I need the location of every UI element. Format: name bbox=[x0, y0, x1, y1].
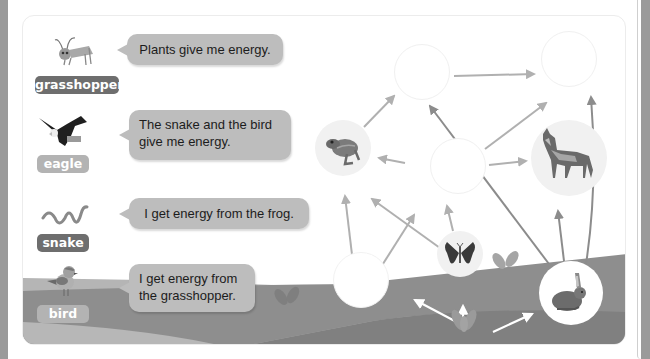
wolf-icon bbox=[531, 120, 607, 196]
arrow-topcenter-to-topright bbox=[454, 74, 534, 76]
frog-icon bbox=[315, 120, 371, 176]
arrow-center-to-wolf bbox=[489, 161, 526, 165]
page-edge-right-inner bbox=[637, 0, 641, 359]
butterfly-icon bbox=[437, 231, 483, 277]
node-top-center-empty[interactable] bbox=[394, 44, 450, 100]
node-butterfly bbox=[437, 231, 483, 277]
node-center-empty[interactable] bbox=[430, 138, 486, 194]
arrow-rabbit-to-wolf bbox=[558, 211, 564, 261]
arrow-center-to-frog bbox=[379, 158, 405, 163]
page-edge-left bbox=[0, 0, 8, 359]
node-wolf bbox=[531, 120, 607, 196]
arrow-plant-to-rabbit bbox=[493, 314, 532, 332]
page-edge-right bbox=[641, 0, 650, 359]
node-frog bbox=[315, 120, 371, 176]
arrow-bottomleft-to-center bbox=[381, 215, 414, 267]
rabbit-icon bbox=[539, 261, 603, 325]
arrow-butterfly-to-frog bbox=[372, 199, 440, 248]
arrow-butterfly-to-center bbox=[447, 206, 453, 231]
node-top-right-empty[interactable] bbox=[541, 31, 597, 87]
food-web-card: grasshopper Plants give me energy. eagle… bbox=[22, 15, 626, 345]
node-rabbit bbox=[539, 261, 603, 325]
node-bottom-left-empty[interactable] bbox=[333, 252, 389, 308]
plant-icon bbox=[447, 306, 481, 334]
